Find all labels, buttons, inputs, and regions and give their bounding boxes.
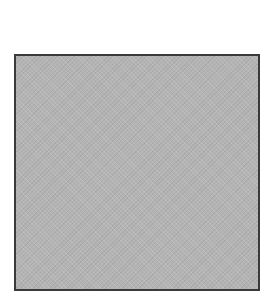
gray-square-swatch (14, 54, 260, 291)
